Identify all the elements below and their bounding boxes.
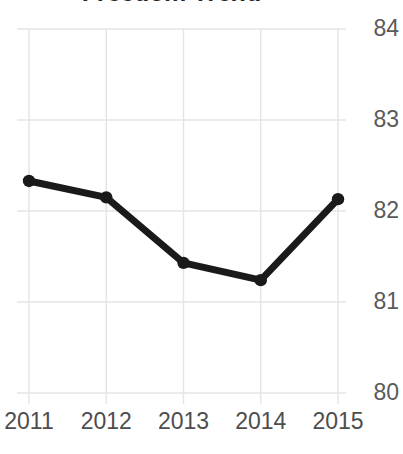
- horizontal-gridlines: [17, 29, 346, 393]
- vertical-gridlines: [29, 29, 338, 404]
- y-tick-label-83: 83: [353, 108, 399, 131]
- y-tick-label-81: 81: [353, 290, 399, 313]
- x-tick-label-2015: 2015: [293, 410, 383, 433]
- data-point-2012: [100, 191, 112, 203]
- plot-area: [0, 0, 403, 454]
- data-point-2013: [177, 257, 189, 269]
- chart-figure: Freedom Trend 8081828384 201120122013201…: [0, 0, 403, 454]
- data-point-2011: [23, 175, 35, 187]
- data-point-2015: [332, 193, 344, 205]
- data-point-2014: [255, 274, 267, 286]
- y-tick-label-84: 84: [353, 17, 399, 40]
- y-tick-label-80: 80: [353, 381, 399, 404]
- line-chart-svg: [0, 0, 403, 454]
- y-tick-label-82: 82: [353, 199, 399, 222]
